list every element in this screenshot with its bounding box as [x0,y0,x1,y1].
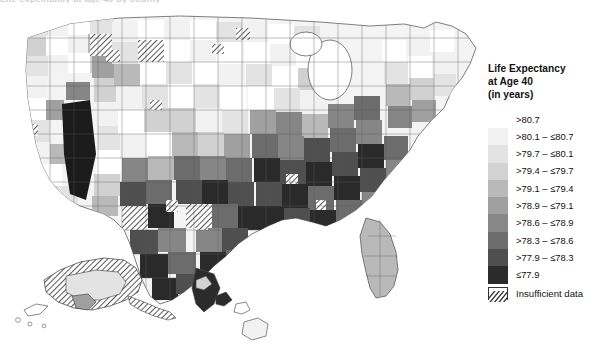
cropped-header-text: Life expectancy at age 40 by county [0,0,470,3]
legend-row-bin-4: >79.1 – ≤79.4 [488,180,593,197]
legend-title-line-2: at Age 40 [488,75,593,88]
legend-row-bin-0: >80.7 [488,111,593,128]
legend-label-bin-2: >79.7 – ≤80.1 [516,149,574,158]
map-legend: Life Expectancy at Age 40 (in years) >80… [488,62,593,302]
legend-row-bin-2: >79.7 – ≤80.1 [488,145,593,162]
legend-row-bin-8: >77.9 – ≤78.3 [488,249,593,266]
legend-row-bin-9: ≤77.9 [488,266,593,283]
legend-swatch-bin-1 [488,128,508,145]
map-svg [0,4,486,340]
legend-label-bin-9: ≤77.9 [516,270,539,279]
florida-region [360,218,398,298]
legend-swatch-bin-9 [488,266,508,283]
legend-title-line-1: Life Expectancy [488,62,593,75]
legend-swatch-bin-0 [488,111,508,128]
legend-label-bin-4: >79.1 – ≤79.4 [516,184,574,193]
legend-swatch-bin-3 [488,163,508,180]
legend-bins: >80.7 >80.1 – ≤80.7 >79.7 – ≤80.1 >79.4 … [488,111,593,302]
legend-title-line-3: (in years) [488,88,593,101]
legend-label-bin-5: >78.9 – ≤79.1 [516,201,574,210]
legend-label-bin-0: >80.7 [516,115,540,124]
legend-label-bin-8: >77.9 – ≤78.3 [516,253,574,262]
legend-row-bin-1: >80.1 – ≤80.7 [488,128,593,145]
legend-swatch-bin-5 [488,197,508,214]
map-counties-layer [16,14,476,340]
legend-label-bin-1: >80.1 – ≤80.7 [516,132,574,141]
legend-row-bin-6: >78.6 – ≤78.9 [488,214,593,231]
legend-swatch-bin-2 [488,145,508,162]
legend-row-insufficient-data: Insufficient data [488,286,593,302]
life-expectancy-county-map-figure: Life expectancy at age 40 by county [0,0,593,344]
legend-swatch-hatch-icon [488,287,508,300]
legend-row-bin-5: >78.9 – ≤79.1 [488,197,593,214]
legend-swatch-bin-7 [488,232,508,249]
legend-swatch-bin-8 [488,249,508,266]
south-texas-region [192,268,220,312]
legend-label-bin-3: >79.4 – ≤79.7 [516,166,574,175]
legend-label-bin-7: >78.3 – ≤78.6 [516,236,574,245]
legend-swatch-bin-6 [488,214,508,231]
legend-label-insufficient-data: Insufficient data [516,289,583,299]
legend-swatch-bin-4 [488,180,508,197]
legend-row-bin-7: >78.3 – ≤78.6 [488,232,593,249]
legend-label-bin-6: >78.6 – ≤78.9 [516,218,574,227]
legend-row-bin-3: >79.4 – ≤79.7 [488,163,593,180]
legend-title: Life Expectancy at Age 40 (in years) [488,62,593,102]
us-county-choropleth-map [0,4,486,340]
